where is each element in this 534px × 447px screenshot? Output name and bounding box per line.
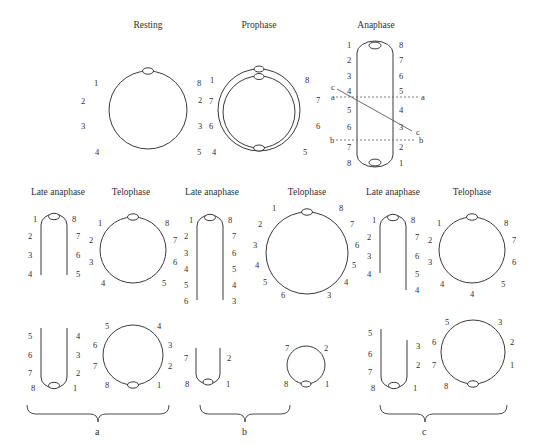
group-b-row1-tel-number: 8 bbox=[339, 204, 343, 213]
group-c-row2-tel-number: 3 bbox=[498, 318, 502, 327]
anaphase-number: 7 bbox=[399, 56, 403, 65]
group-a-row1-la-number: 4 bbox=[28, 270, 32, 279]
group-c-row2-la-number: 5 bbox=[368, 329, 372, 338]
centromere-icon bbox=[254, 74, 264, 80]
anaphase-number: 4 bbox=[399, 106, 403, 115]
group-a-row1-la-number: 2 bbox=[28, 232, 32, 241]
group-b-row1-tel-number: 1 bbox=[272, 204, 276, 213]
prophase-number: 2 bbox=[198, 96, 202, 105]
prophase-chromosome bbox=[218, 66, 300, 151]
section-label-a-right: a bbox=[421, 93, 425, 102]
centromere-icon bbox=[302, 209, 313, 215]
group-c-row1-la-number: 4 bbox=[367, 270, 371, 279]
prophase-number: 1 bbox=[210, 76, 214, 85]
group-c-row1-la-number: 6 bbox=[415, 252, 419, 261]
group-c-row2-late-anaphase-shape bbox=[381, 329, 407, 389]
resting-number: 1 bbox=[94, 79, 98, 88]
anaphase-number: 1 bbox=[399, 159, 403, 168]
group-a-row1-la-number: 6 bbox=[76, 251, 80, 260]
group-c-row2-la-number: 3 bbox=[416, 342, 420, 351]
anaphase-number: 8 bbox=[347, 159, 351, 168]
group-b-row1-la-number: 4 bbox=[232, 281, 236, 290]
group-b-row2-la-number: 8 bbox=[185, 380, 189, 389]
group-c-row1-la-number: 5 bbox=[415, 270, 419, 279]
group-c-row2-tel-number: 2 bbox=[510, 338, 514, 347]
brace-b-shape bbox=[200, 405, 290, 422]
centromere-icon bbox=[128, 214, 139, 220]
anaphase-number: 3 bbox=[347, 72, 351, 81]
brace-label-a: a bbox=[95, 427, 99, 437]
group-a-row1-tel-number: 1 bbox=[98, 219, 102, 228]
group-a-row2-la-number: 8 bbox=[31, 384, 35, 393]
anaphase-number: 8 bbox=[399, 41, 403, 50]
group-c-row1-telophase-shape bbox=[439, 214, 505, 283]
prophase-number: 6 bbox=[316, 122, 320, 131]
brace-a-shape bbox=[27, 405, 169, 422]
group-b-row1-telophase-shape bbox=[266, 209, 348, 294]
brace-label-c: c bbox=[422, 427, 426, 437]
group-c-row2-la-number: 1 bbox=[413, 384, 417, 393]
group-a-row1-tel-number: 7 bbox=[173, 236, 177, 245]
title-group-b-late-anaphase: Late anaphase bbox=[177, 188, 247, 198]
group-b-row1-tel-number: 5 bbox=[263, 278, 267, 287]
group-c-row1-tel-number: 1 bbox=[437, 219, 441, 228]
group-b-row2-late-anaphase-shape bbox=[196, 348, 220, 385]
centromere-icon bbox=[467, 214, 478, 220]
section-label-c-right: c bbox=[416, 128, 420, 137]
group-b-row1-la-number: 5 bbox=[232, 265, 236, 274]
group-c-row1-tel-number: 2 bbox=[428, 236, 432, 245]
group-b-row1-la-number: 1 bbox=[189, 216, 193, 225]
anaphase-number: 2 bbox=[347, 56, 351, 65]
group-b-row2-la-number: 1 bbox=[226, 380, 230, 389]
group-b-row1-tel-number: 3 bbox=[253, 241, 257, 250]
group-b-row1-la-number: 8 bbox=[228, 216, 232, 225]
anaphase-number: 4 bbox=[347, 87, 351, 96]
anaphase-number: 5 bbox=[399, 87, 403, 96]
group-a-row2-la-number: 6 bbox=[28, 351, 32, 360]
brace-c-shape bbox=[380, 405, 507, 422]
group-c-row1-tel-extra-number: 4 bbox=[470, 290, 474, 299]
group-a-row2-late-anaphase-shape bbox=[41, 328, 67, 389]
group-a-row1-tel-number: 3 bbox=[89, 258, 93, 267]
centromere-icon bbox=[49, 213, 60, 219]
group-a-row2-la-number: 2 bbox=[76, 369, 80, 378]
group-b-row1-tel-number: 5 bbox=[352, 261, 356, 270]
group-c-row1-tel-number: 5 bbox=[501, 280, 505, 289]
centromere-icon bbox=[468, 381, 479, 387]
brace-label-b: b bbox=[242, 427, 247, 437]
group-a-row1-la-number: 1 bbox=[33, 215, 37, 224]
group-c-row1-la-number: 2 bbox=[367, 233, 371, 242]
group-a-row1-la-number: 3 bbox=[28, 251, 32, 260]
title-group-a-telophase: Telophase bbox=[100, 188, 162, 198]
group-a-row1-la-number: 5 bbox=[76, 270, 80, 279]
group-a-row2-tel-number: 5 bbox=[105, 322, 109, 331]
section-label-c-left: c bbox=[331, 83, 335, 92]
group-b-row1-la-number: 7 bbox=[232, 232, 236, 241]
resting-chromosome bbox=[109, 68, 187, 149]
group-b-row1-la-number: 2 bbox=[184, 232, 188, 241]
centromere-icon bbox=[205, 214, 216, 220]
group-b-row1-la-number: 3 bbox=[232, 297, 236, 306]
group-b-row1-tel-number: 6 bbox=[355, 241, 359, 250]
anaphase-number: 6 bbox=[347, 123, 351, 132]
anaphase-number: 2 bbox=[399, 143, 403, 152]
group-c-row1-tel-number: 3 bbox=[428, 258, 432, 267]
centromere-icon bbox=[254, 66, 264, 72]
centromere-icon bbox=[128, 382, 139, 388]
group-a-row1-telophase-shape bbox=[100, 214, 166, 283]
group-a-row1-tel-number: 4 bbox=[101, 279, 105, 288]
group-c-row1-la-number: 3 bbox=[367, 252, 371, 261]
group-c-row2-tel-number: 6 bbox=[432, 338, 436, 347]
prophase-number: 5 bbox=[303, 148, 307, 157]
group-a-row1-tel-number: 6 bbox=[173, 258, 177, 267]
title-group-b-telophase: Telophase bbox=[276, 188, 338, 198]
title-group-c-telophase: Telophase bbox=[441, 188, 503, 198]
group-c-row2-tel-number: 7 bbox=[432, 361, 436, 370]
group-b-row1-tel-number: 4 bbox=[255, 261, 259, 270]
group-c-row1-tel-number: 7 bbox=[512, 236, 516, 245]
group-a-row1-tel-number: 2 bbox=[89, 236, 93, 245]
figure-shapes bbox=[0, 0, 534, 447]
group-b-row1-tel-number: 2 bbox=[258, 220, 262, 229]
group-b-row1-tel-number: 6 bbox=[281, 291, 285, 300]
centromere-icon bbox=[388, 214, 399, 220]
